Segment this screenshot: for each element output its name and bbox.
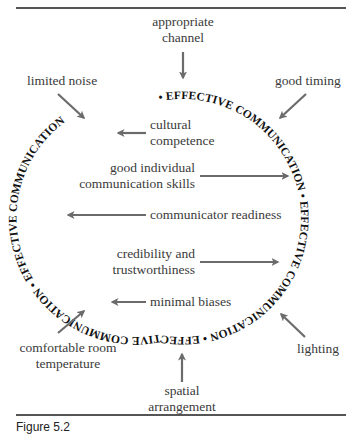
label-line: appropriate [133, 14, 233, 30]
label-line: trustworthiness [75, 262, 195, 278]
arrow-lighting [281, 314, 305, 337]
label-line: arrangement [132, 399, 232, 415]
figure-caption: Figure 5.2 [16, 420, 70, 434]
label-line: temperature [8, 356, 128, 372]
label-communicator-readiness: communicator readiness [150, 207, 282, 223]
arrow-limited-noise [58, 94, 84, 118]
label-line: lighting [297, 341, 339, 356]
label-limited-noise: limited noise [27, 73, 97, 89]
label-line: good individual [55, 160, 195, 176]
label-minimal-biases: minimal biases [150, 294, 231, 310]
label-good-timing: good timing [275, 73, 341, 89]
label-line: spatial [132, 383, 232, 399]
label-line: cultural [150, 117, 214, 133]
label-cultural-competence: cultural competence [150, 117, 214, 149]
label-line: communicator readiness [150, 207, 282, 222]
label-comfortable-room-temperature: comfortable room temperature [8, 340, 128, 372]
label-line: limited noise [27, 73, 97, 88]
label-line: credibility and [75, 246, 195, 262]
label-spatial-arrangement: spatial arrangement [132, 383, 232, 415]
label-line: minimal biases [150, 294, 231, 309]
label-line: channel [133, 30, 233, 46]
label-credibility: credibility and trustworthiness [75, 246, 195, 278]
label-line: comfortable room [8, 340, 128, 356]
label-communication-skills: good individual communication skills [55, 160, 195, 192]
label-appropriate-channel: appropriate channel [133, 14, 233, 46]
label-line: communication skills [55, 176, 195, 192]
label-line: competence [150, 133, 214, 149]
label-line: good timing [275, 73, 341, 88]
arrow-good-timing [280, 94, 306, 118]
label-lighting: lighting [288, 341, 348, 357]
